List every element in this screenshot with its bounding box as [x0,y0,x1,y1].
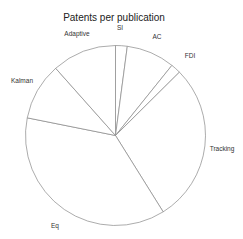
chart-title: Patents per publication [63,12,165,23]
slice-label-fdi: FDI [185,52,196,59]
slice-label-adaptive: Adaptive [64,30,90,38]
pie-chart: Patents per publication SI AC FDI Tracki… [0,0,243,239]
slice-label-kalman: Kalman [11,77,33,84]
pie-slices [26,46,206,226]
slice-label-eq: Eq [51,222,59,230]
slice-label-tracking: Tracking [210,145,235,153]
slice-label-si: SI [117,24,123,31]
slice-label-ac: AC [152,33,161,40]
